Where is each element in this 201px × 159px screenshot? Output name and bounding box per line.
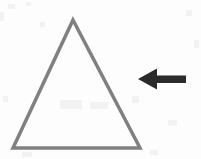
triangle-outline <box>13 20 140 148</box>
figure-canvas <box>0 0 201 159</box>
arrow-left-icon <box>138 69 186 90</box>
figure-graphic <box>0 0 201 159</box>
